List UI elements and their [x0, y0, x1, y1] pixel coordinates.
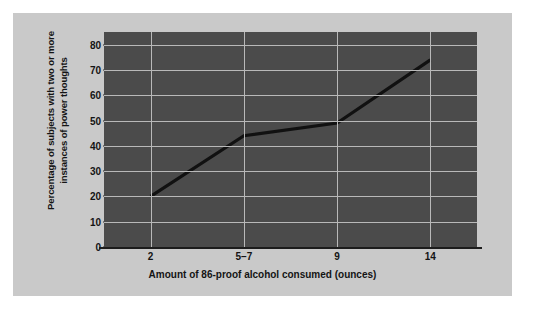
x-axis-line — [99, 247, 482, 249]
y-axis-tick-label: 50 — [73, 115, 101, 126]
gridline-horizontal — [104, 222, 477, 223]
gridline-vertical — [151, 32, 152, 247]
x-axis-title: Amount of 86-proof alcohol consumed (oun… — [13, 269, 512, 280]
chart-figure-card: Percentage of subjects with two or more … — [13, 13, 512, 296]
gridline-horizontal — [104, 95, 477, 96]
x-axis-tick-label: 14 — [425, 251, 436, 262]
y-axis-tick-label: 20 — [73, 191, 101, 202]
y-axis-tick-label: 30 — [73, 166, 101, 177]
data-line-series — [104, 32, 477, 247]
gridline-vertical — [430, 32, 431, 247]
gridline-horizontal — [104, 121, 477, 122]
gridline-vertical — [337, 32, 338, 247]
y-axis-title: Percentage of subjects with two or more … — [45, 13, 70, 228]
y-axis-title-line-2: instances of power thoughts — [58, 13, 71, 228]
x-axis-tick-labels: 25–7914 — [104, 251, 477, 267]
gridline-horizontal — [104, 196, 477, 197]
y-axis-tick-label: 10 — [73, 216, 101, 227]
y-axis-tick-label: 60 — [73, 90, 101, 101]
y-axis-title-line-1: Percentage of subjects with two or more — [45, 13, 58, 228]
data-polyline — [151, 60, 431, 197]
y-axis-tick-label: 40 — [73, 140, 101, 151]
gridline-horizontal — [104, 45, 477, 46]
y-axis-tick-label: 80 — [73, 39, 101, 50]
plot-area — [104, 32, 477, 247]
x-axis-tick-label: 9 — [334, 251, 340, 262]
gridline-vertical — [244, 32, 245, 247]
x-axis-tick-label: 2 — [148, 251, 154, 262]
y-axis-tick-label: 70 — [73, 64, 101, 75]
gridline-horizontal — [104, 70, 477, 71]
gridline-horizontal — [104, 146, 477, 147]
gridline-horizontal — [104, 171, 477, 172]
x-axis-tick-label: 5–7 — [236, 251, 253, 262]
y-axis-tick-labels: 01020304050607080 — [73, 32, 101, 247]
y-axis-tick-label: 0 — [73, 242, 101, 253]
